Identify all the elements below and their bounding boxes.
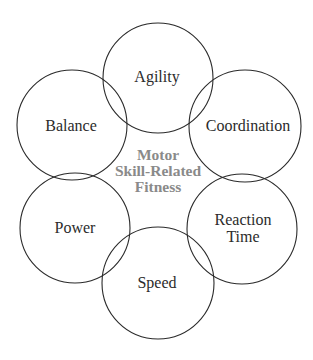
reaction-time-label-line1: Reaction: [215, 211, 272, 228]
agility-label: Agility: [134, 68, 179, 86]
center-label-line2: Skill-Related: [115, 162, 201, 179]
node-agility: Agility: [103, 23, 213, 133]
reaction-time-label-line2: Time: [226, 228, 259, 245]
node-speed: Speed: [102, 227, 214, 339]
center-label-group: Motor Skill-Related Fitness: [115, 146, 201, 195]
motor-skill-diagram: Agility Coordination Reaction Time Speed…: [0, 0, 313, 360]
node-coordination: Coordination: [189, 70, 301, 182]
node-power: Power: [20, 173, 130, 283]
node-balance: Balance: [17, 70, 127, 180]
balance-label: Balance: [45, 117, 97, 134]
coordination-label: Coordination: [206, 117, 290, 134]
center-label-line3: Fitness: [135, 178, 182, 195]
center-label-line1: Motor: [137, 146, 179, 163]
power-label: Power: [55, 219, 97, 236]
speed-label: Speed: [137, 274, 176, 292]
node-reaction-time: Reaction Time: [187, 174, 297, 284]
